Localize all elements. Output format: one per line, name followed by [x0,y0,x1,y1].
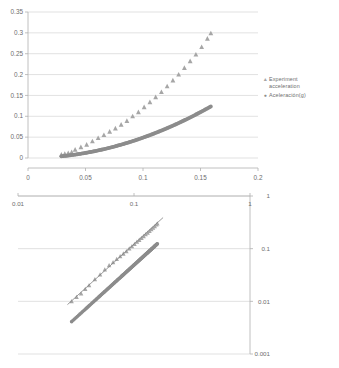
data-point-triangle [115,257,119,261]
series-aceleracion-g [70,242,159,323]
tick-label: 0.1 [130,200,139,207]
tick-label: 0 [19,154,23,161]
figure-container: 00.050.10.150.20.250.30.35 00.050.10.150… [0,0,339,368]
circle-marker-icon: ● [262,92,269,99]
data-point-triangle [136,110,141,115]
tick-label: 0.3 [14,29,23,36]
data-point-triangle [199,44,204,49]
tick-label: 0.05 [79,174,92,181]
tick-label: 0.2 [254,174,263,181]
tick-label: 1 [267,192,271,199]
linear-chart-legend: ▲ Experiment acceleration ● Aceleración(… [262,76,306,100]
trendline-experiment-line [67,218,163,305]
loglog-scale-chart: 10.10.010.001 0.010.11 y = 12.372x2.0048… [0,188,339,368]
legend-label-experiment: Experiment acceleration [269,76,300,91]
tick-label: 0.1 [14,112,23,119]
tick-label: 0.01 [258,298,271,305]
y-axis-tick-labels: 00.050.10.150.20.250.30.35 [11,8,24,161]
tick-label: 0.1 [139,174,148,181]
legend-label-aceleracion: Aceleración(g) [269,92,306,99]
data-point-triangle [79,145,84,150]
data-point-triangle [194,52,199,57]
x-axis-tick-labels: 0.010.11 [12,200,252,207]
data-point-triangle [182,65,187,70]
axis-lines [18,193,253,354]
data-point-triangle [73,147,78,152]
data-point-circle [209,105,213,109]
tick-label: 0.35 [11,8,24,15]
data-point-triangle [113,126,118,131]
data-point-triangle [159,89,164,94]
trendline-experiment [67,218,163,305]
data-point-triangle [107,129,112,134]
tick-label: 1 [248,200,252,207]
tick-label: 0.2 [14,71,23,78]
data-point-triangle [148,100,153,105]
tick-label: 0.25 [11,50,24,57]
tick-label: 0.001 [255,350,271,357]
linear-scale-chart: 00.050.10.150.20.250.30.35 00.050.10.150… [0,0,339,188]
data-point-triangle [96,135,101,140]
series-aceleracion-g [59,105,212,159]
data-point-triangle [102,132,107,137]
data-point-triangle [90,139,95,144]
legend-entry-experiment: ▲ Experiment acceleration [262,76,306,91]
tick-label: 0.15 [11,92,24,99]
triangle-marker-icon: ▲ [262,76,269,83]
data-point-circle [156,242,160,246]
tick-label: 0.01 [12,200,25,207]
data-point-triangle [188,59,193,64]
loglog-chart-plot: 10.10.010.001 0.010.11 [0,188,339,368]
y-axis-tick-labels: 10.10.010.001 [255,192,271,357]
legend-entry-aceleracion: ● Aceleración(g) [262,92,306,99]
data-point-triangle [84,142,89,147]
gridlines-horizontal [18,196,250,354]
tick-label: 0 [26,174,30,181]
tick-label: 0.05 [11,133,24,140]
x-axis-tick-labels: 00.050.10.150.2 [26,174,263,181]
series-experiment-acceleration [59,31,213,157]
axis-lines [25,12,258,171]
data-point-triangle [205,36,210,41]
data-point-triangle [125,118,130,123]
data-point-triangle [119,122,124,127]
tick-label: 0.15 [194,174,207,181]
tick-label: 0.1 [261,245,270,252]
data-point-triangle [171,78,176,83]
data-point-triangle [142,105,147,110]
data-point-triangle [165,84,170,89]
